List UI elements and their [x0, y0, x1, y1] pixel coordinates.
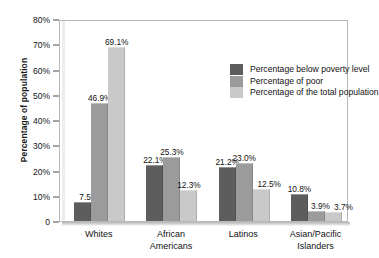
bar	[180, 190, 197, 221]
bar	[74, 202, 91, 221]
x-axis-label-line: African	[150, 229, 193, 241]
bar-value-label: 10.8%	[288, 184, 312, 194]
x-axis-label: Latinos	[229, 229, 258, 241]
bar-value-label: 25.3%	[160, 147, 184, 157]
bar	[108, 47, 125, 221]
y-axis-tick-label: 70%	[0, 40, 59, 50]
legend-swatch-icon	[230, 76, 243, 87]
x-axis-label: AfricanAmericans	[150, 229, 193, 252]
bar	[253, 189, 270, 221]
legend-label: Percentage below poverty level	[250, 64, 369, 75]
bar-value-label: 3.9%	[311, 201, 330, 211]
legend-swatch-icon	[230, 64, 243, 75]
y-axis-tick-label: 80%	[0, 15, 59, 25]
y-axis-tick-label: 10%	[0, 192, 59, 202]
bar	[146, 165, 163, 221]
legend-item: Percentage below poverty level	[230, 64, 379, 76]
bar-value-label: 69.1%	[105, 37, 129, 47]
y-axis-tick-label: 0	[0, 217, 59, 227]
y-axis-tick-label: 50%	[0, 91, 59, 101]
legend-label: Percentage of the total population	[250, 87, 379, 98]
chart-legend: Percentage below poverty levelPercentage…	[230, 64, 379, 99]
baseline-shadow	[62, 222, 350, 226]
bar	[219, 167, 236, 221]
bar-value-label: 12.5%	[257, 179, 281, 189]
legend-item: Percentage of poor	[230, 76, 379, 88]
x-axis-label-line: Americans	[150, 241, 193, 253]
bar	[91, 103, 108, 221]
bar-value-label: 23.0%	[232, 153, 256, 163]
bar	[308, 211, 325, 221]
legend-item: Percentage of the total population	[230, 87, 379, 99]
y-axis-tick-label: 30%	[0, 141, 59, 151]
y-axis-tick-label: 60%	[0, 66, 59, 76]
plot-area: 7.5%46.9%69.1%22.1%25.3%12.3%21.2%23.0%1…	[59, 20, 348, 222]
y-axis-tick-label: 20%	[0, 167, 59, 177]
bar	[236, 163, 253, 221]
x-axis-label: Whites	[85, 229, 113, 241]
y-axis-tick-label: 40%	[0, 116, 59, 126]
x-axis-label-line: Islanders	[290, 241, 342, 253]
x-axis-label-line: Latinos	[229, 229, 258, 241]
bar	[325, 212, 342, 221]
x-axis-label-line: Whites	[85, 229, 113, 241]
legend-swatch-icon	[230, 87, 243, 98]
bar	[291, 194, 308, 221]
x-axis-label-line: Asian/Pacific	[290, 229, 342, 241]
bar-value-label: 12.3%	[177, 180, 201, 190]
x-axis-label: Asian/PacificIslanders	[290, 229, 342, 252]
bar-value-label: 3.7%	[334, 202, 353, 212]
legend-label: Percentage of poor	[250, 76, 323, 87]
